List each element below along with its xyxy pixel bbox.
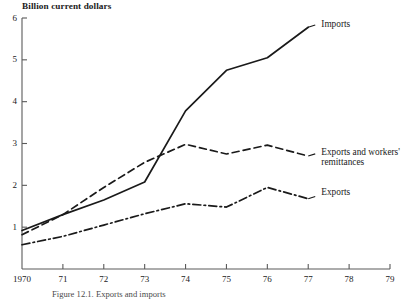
- x-tick-label: 77: [293, 275, 323, 284]
- y-tick-label: 2: [3, 181, 17, 190]
- x-tick-label: 73: [130, 275, 160, 284]
- x-tick-label: 72: [89, 275, 119, 284]
- series-line-exports: [22, 187, 308, 244]
- series-label: Imports: [321, 19, 350, 29]
- y-tick-label: 6: [3, 14, 17, 23]
- y-tick-label: 4: [3, 97, 17, 106]
- x-tick-label: 71: [48, 275, 78, 284]
- y-tick-label: 5: [3, 55, 17, 64]
- series-label: Exports: [321, 187, 350, 197]
- y-tick-label: 3: [3, 139, 17, 148]
- y-tick-label: 1: [3, 223, 17, 232]
- x-tick-label: 74: [171, 275, 201, 284]
- series-line-exports-and-workers-remittances: [22, 144, 308, 234]
- x-tick-label: 76: [252, 275, 282, 284]
- series-leader-line: [308, 197, 315, 199]
- x-tick-label: 79: [375, 275, 405, 284]
- figure-caption: Figure 12.1. Exports and imports: [52, 289, 166, 299]
- x-tick-label: 1970: [7, 275, 37, 284]
- y-axis-title: Billion current dollars: [22, 1, 111, 11]
- series-label: Exports and workers' remittances: [321, 147, 406, 167]
- series-line-imports: [22, 27, 308, 230]
- series-leader-line: [308, 154, 315, 156]
- x-tick-label: 78: [334, 275, 364, 284]
- series-leader-line: [308, 25, 315, 27]
- x-tick-label: 75: [211, 275, 241, 284]
